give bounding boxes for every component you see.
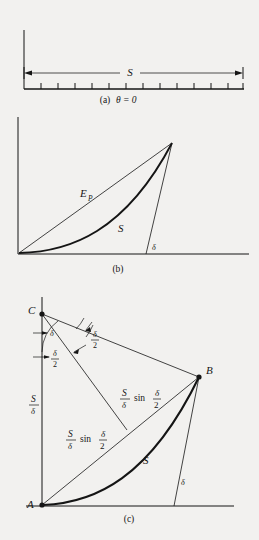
chord-lower-half-den: 2 xyxy=(100,441,105,451)
chord-lower-den: δ xyxy=(68,441,73,451)
leader-arrowhead-2 xyxy=(44,355,50,358)
panel-c-angle-half-right-num: δ xyxy=(93,330,97,339)
panel-c-chord-lower-expression: S δ sin δ 2 xyxy=(66,429,107,451)
panel-c-angle-half-left-num: δ xyxy=(53,349,57,358)
panel-c-chord-upper-expression: S δ sin δ 2 xyxy=(120,388,161,410)
panel-c-point-C-dot xyxy=(39,311,44,316)
panel-c-angle-half-right-den: 2 xyxy=(93,341,97,350)
panel-a-caption: (a) xyxy=(100,95,111,106)
panel-c-radius-num: S xyxy=(31,394,36,404)
panel-b-curve-label: S xyxy=(118,222,124,234)
dimension-arrowhead-left xyxy=(24,71,32,76)
panel-b-angle-label: δ xyxy=(152,243,156,252)
panel-c-label-C: C xyxy=(28,304,36,316)
chord-lower-num: S xyxy=(68,429,73,439)
chord-upper-sin: sin xyxy=(134,393,145,403)
panel-c-caption: (c) xyxy=(124,514,135,525)
leader-arrowhead-3 xyxy=(73,349,79,354)
panel-b: E P S δ (b) xyxy=(18,117,249,275)
panel-c-label-B: B xyxy=(206,364,213,376)
chord-lower-half-num: δ xyxy=(101,429,106,439)
panel-c-point-B-dot xyxy=(196,374,201,379)
panel-c-end-angle-label: δ xyxy=(181,478,185,487)
textbook-figure: S (a) θ = 0 E P S δ (b) xyxy=(0,0,259,540)
panel-b-tangent xyxy=(146,143,172,254)
panel-c-angle-half-left-den: 2 xyxy=(53,360,57,369)
panel-c-arc-label: S xyxy=(143,454,149,466)
panel-c-tangent xyxy=(174,377,199,506)
panel-a-condition: θ = 0 xyxy=(116,95,137,105)
chord-upper-half-den: 2 xyxy=(154,400,159,410)
panel-b-chord xyxy=(19,143,172,253)
panel-c-radius-den: δ xyxy=(31,406,36,416)
chord-upper-den: δ xyxy=(122,400,127,410)
panel-a: S (a) θ = 0 xyxy=(24,30,244,106)
panel-b-chord-sub: P xyxy=(87,194,93,203)
dimension-arrowhead-right xyxy=(235,71,243,76)
panel-c-angle-arc-upper xyxy=(76,318,84,329)
panel-b-chord-label: E xyxy=(79,187,87,199)
chord-upper-half-num: δ xyxy=(155,388,160,398)
panel-c-line-AB xyxy=(42,377,199,505)
panel-a-ticks xyxy=(24,83,243,89)
panel-c: C B A δ δ 2 δ 2 S δ S δ sin δ 2 S δ xyxy=(26,297,234,525)
leader-arrowhead-1 xyxy=(42,331,48,334)
panel-b-caption: (b) xyxy=(112,264,123,275)
chord-lower-sin: sin xyxy=(80,434,91,444)
chord-upper-num: S xyxy=(122,388,127,398)
panel-a-span-label: S xyxy=(127,66,133,78)
panel-c-angle-full-label: δ xyxy=(50,329,54,338)
panel-c-label-A: A xyxy=(26,498,34,510)
panel-c-point-A-dot xyxy=(39,502,44,507)
